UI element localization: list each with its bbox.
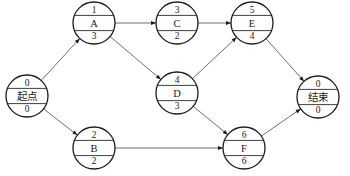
node-E: 5E4 <box>231 2 273 44</box>
node-bottom-value: 2 <box>175 31 180 41</box>
edge-start-to-A <box>41 39 80 81</box>
edge-D-to-F <box>193 106 228 134</box>
node-top-value: 0 <box>25 78 30 88</box>
edge-start-to-B <box>44 109 78 135</box>
node-label: F <box>241 143 247 154</box>
node-label: C <box>173 18 180 29</box>
node-top-value: 5 <box>250 5 255 15</box>
edge-A-to-D <box>110 37 161 80</box>
node-top-value: 6 <box>242 130 247 140</box>
network-diagram: 0起点01A33C25E44D32B26F60结束0 <box>0 0 350 176</box>
node-label: A <box>90 18 98 29</box>
node-bottom-value: 3 <box>92 31 97 41</box>
node-bottom-value: 4 <box>250 31 255 41</box>
node-top-value: 1 <box>92 5 97 15</box>
node-B: 2B2 <box>73 127 115 169</box>
node-bottom-value: 0 <box>25 104 30 114</box>
node-top-value: 3 <box>175 5 180 15</box>
edge-E-to-end <box>266 39 304 82</box>
node-label: E <box>249 18 255 29</box>
node-top-value: 2 <box>92 130 97 140</box>
node-C: 3C2 <box>156 2 198 44</box>
node-A: 1A3 <box>73 2 115 44</box>
node-top-value: 0 <box>316 79 321 89</box>
node-label: 结束 <box>308 91 329 103</box>
node-label: 起点 <box>17 90 37 102</box>
node-end: 0结束0 <box>297 76 339 118</box>
edge-F-to-end <box>261 109 300 136</box>
node-bottom-value: 0 <box>316 105 321 115</box>
nodes-layer: 0起点01A33C25E44D32B26F60结束0 <box>6 2 339 169</box>
node-top-value: 4 <box>175 75 180 85</box>
node-D: 4D3 <box>156 72 198 114</box>
node-bottom-value: 6 <box>242 156 247 166</box>
edge-D-to-E <box>192 37 236 78</box>
node-start: 0起点0 <box>6 75 48 117</box>
node-bottom-value: 2 <box>92 156 97 166</box>
node-label: D <box>173 88 181 99</box>
node-F: 6F6 <box>223 127 265 169</box>
node-bottom-value: 3 <box>175 101 180 111</box>
node-label: B <box>90 143 97 154</box>
